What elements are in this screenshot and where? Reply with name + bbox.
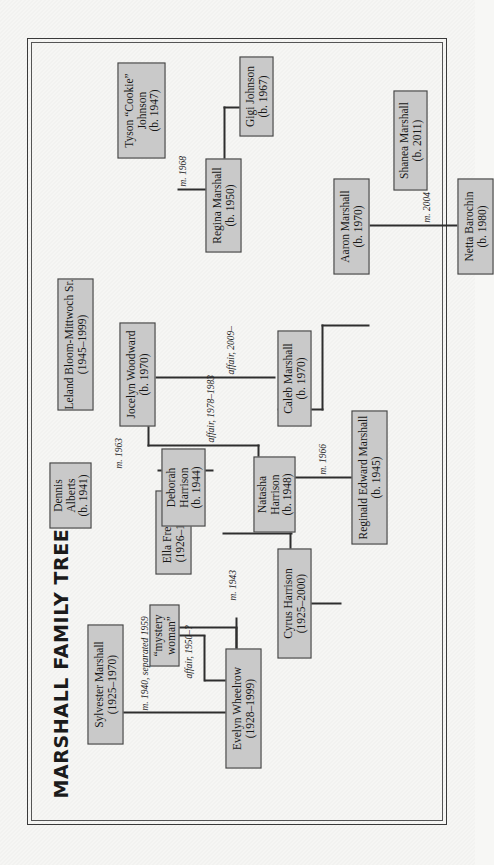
node-regina-marshall[interactable]: Regina Marshall (b. 1950): [206, 158, 242, 252]
node-dates: (b. 1980): [476, 191, 489, 261]
node-dates: (b. 1970): [295, 343, 308, 414]
edge-aaron-branch: [322, 324, 370, 326]
node-leland-bloom-mittwoch-sr[interactable]: Leland Bloom-Mittwoch Sr. (1945–1999): [58, 278, 94, 410]
node-netta-barochin[interactable]: Netta Barochin (b. 1980): [458, 178, 494, 274]
node-name: Shanea Marshall: [398, 102, 411, 179]
node-dates: (b. 1970): [138, 330, 151, 418]
edge-caleb-jocelyn: [156, 376, 276, 378]
node-name: Evelyn Wheelrow: [231, 666, 244, 749]
rel-label-natasha-leland: affair, 1978–1983: [206, 374, 216, 442]
node-sylvester-marshall[interactable]: Sylvester Marshall (1925–1970): [88, 624, 124, 744]
node-deborah-harrison[interactable]: Deborah Harrison (b. 1944): [162, 448, 206, 526]
rel-label-reginald-natasha: m. 1966: [318, 443, 328, 474]
family-tree-canvas: MARSHALL FAMILY TREE: [28, 39, 448, 826]
node-name: Regina Marshall: [211, 167, 224, 243]
node-tyson-cookie-johnson[interactable]: Tyson “Cookie” Johnson (b. 1947): [118, 62, 166, 158]
edge-sylvester-evelyn-vertical: [116, 711, 238, 713]
node-name: Netta Barochin: [463, 191, 476, 261]
node-name: Tyson “Cookie” Johnson: [122, 66, 148, 154]
node-dates: (1945–1999): [76, 279, 89, 409]
node-dates: (b. 1970): [352, 190, 365, 263]
node-dates: (b. 2011): [411, 102, 424, 179]
page-title: MARSHALL FAMILY TREE: [50, 528, 72, 798]
node-dates: (b. 1947): [148, 66, 161, 154]
rel-label-sylvester-mystery: affair, 1950–?: [184, 625, 194, 678]
node-dates: (b. 1944): [190, 452, 203, 522]
rel-label-deborah-dennis: m. 1963: [114, 437, 124, 468]
node-name: Gigi Johnson: [244, 65, 257, 126]
node-dennis-alberts[interactable]: Dennis Alberts (b. 1941): [50, 462, 92, 528]
rel-label-cyrus-ella: m. 1943: [228, 569, 238, 600]
edge-natasha-leland-vertical: [148, 444, 260, 446]
node-dates: (b. 1945): [370, 415, 383, 539]
node-shanea-marshall[interactable]: Shanea Marshall (b. 2011): [394, 90, 428, 190]
edge-sylvester-mystery-horizontal: [204, 635, 206, 681]
node-name: Deborah Harrison: [164, 452, 190, 522]
node-reginald-edward-marshall[interactable]: Reginald Edward Marshall (b. 1945): [352, 410, 388, 544]
node-name: “mystery woman”: [152, 608, 178, 662]
node-name: Leland Bloom-Mittwoch Sr.: [63, 279, 76, 409]
node-evelyn-wheelrow[interactable]: Evelyn Wheelrow (1928–1999): [226, 648, 262, 768]
node-name: Cyrus Harrison: [282, 568, 295, 639]
node-dates: (1925–2000): [295, 568, 308, 639]
node-name: Reginald Edward Marshall: [357, 415, 370, 539]
edge-aaron-netta: [370, 224, 458, 226]
node-name: Caleb Marshall: [282, 343, 295, 414]
node-name: Aaron Marshall: [339, 190, 352, 263]
node-dates: (b. 1950): [224, 167, 237, 243]
node-name: Dennis Alberts: [51, 466, 77, 524]
node-gigi-johnson[interactable]: Gigi Johnson (b. 1967): [240, 56, 274, 136]
node-natasha-harrison[interactable]: Natasha Harrison (b. 1948): [254, 456, 296, 532]
node-name: Jocelyn Woodward: [125, 330, 138, 418]
node-name: Sylvester Marshall: [93, 641, 106, 728]
node-jocelyn-woodward[interactable]: Jocelyn Woodward (b. 1970): [120, 322, 156, 426]
edge-harrison-children-spine: [223, 532, 293, 534]
rel-label-sylvester-evelyn: m. 1940, separated 1959: [140, 616, 150, 710]
node-aaron-marshall[interactable]: Aaron Marshall (b. 1970): [334, 178, 370, 274]
node-dates: (1928–1999): [244, 666, 257, 749]
node-dates: (b. 1967): [257, 65, 270, 126]
rel-label-regina-tyson: m. 1968: [178, 155, 188, 186]
edge-marshall-children-bar: [322, 324, 324, 410]
family-tree-stage: MARSHALL FAMILY TREE: [28, 39, 448, 826]
rel-label-caleb-jocelyn: affair, 2009–: [226, 325, 236, 374]
node-dates: (b. 1941): [77, 466, 90, 524]
node-caleb-marshall[interactable]: Caleb Marshall (b. 1970): [278, 330, 312, 426]
node-dates: (1925–1970): [106, 641, 119, 728]
edge-gigi-bar: [224, 106, 226, 162]
node-cyrus-harrison[interactable]: Cyrus Harrison (1925–2000): [278, 548, 312, 658]
node-mystery-woman[interactable]: “mystery woman”: [150, 604, 180, 666]
rel-label-aaron-netta: m. 2004: [422, 191, 432, 222]
node-dates: (b. 1948): [281, 460, 294, 528]
node-name: Natasha Harrison: [255, 460, 281, 528]
edge-reginald-natasha: [291, 476, 353, 478]
